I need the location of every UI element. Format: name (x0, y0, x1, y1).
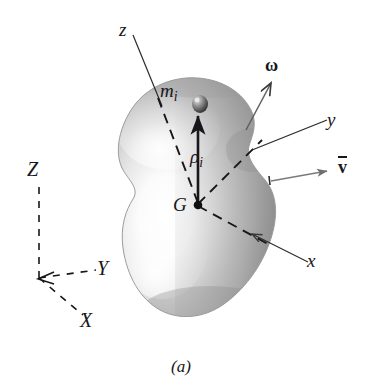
label-body-axis-y: y (327, 110, 335, 129)
fixed-frame-origin-arrow (38, 272, 54, 284)
fixed-axis-X-line (39, 278, 83, 315)
angular-velocity-vector (246, 83, 271, 130)
label-position-vector-subscript: i (199, 155, 203, 170)
label-particle-mass-subscript: i (174, 89, 178, 104)
label-particle-mass-symbol: m (160, 80, 174, 101)
particle-mass-bead (192, 95, 208, 113)
label-fixed-axis-X: X (80, 310, 92, 330)
label-angular-velocity: ω (265, 56, 278, 74)
label-body-axis-x: x (307, 251, 315, 270)
fixed-reference-frame (38, 186, 96, 315)
label-velocity-mass-center: v (338, 158, 347, 176)
fixed-axis-Y-line (39, 270, 96, 278)
label-velocity-symbol: v (338, 158, 347, 176)
velocity-vector-vbar (269, 171, 327, 185)
label-position-vector: ρi (190, 147, 203, 170)
body-axis-y (198, 120, 327, 204)
annotation-layer (0, 0, 369, 384)
figure-container: z mi ρi G y x ω v Z Y X (a) (0, 0, 369, 384)
label-body-axis-z: z (119, 20, 126, 39)
mass-center-point (194, 201, 203, 210)
label-fixed-axis-Z: Z (27, 159, 38, 179)
label-mass-center: G (173, 195, 187, 214)
body-axis-z (133, 35, 198, 203)
figure-caption: (a) (171, 358, 191, 375)
body-axis-x (198, 206, 308, 262)
label-position-vector-symbol: ρ (190, 146, 199, 167)
label-particle-mass: mi (160, 81, 178, 104)
label-fixed-axis-Y: Y (97, 258, 108, 278)
